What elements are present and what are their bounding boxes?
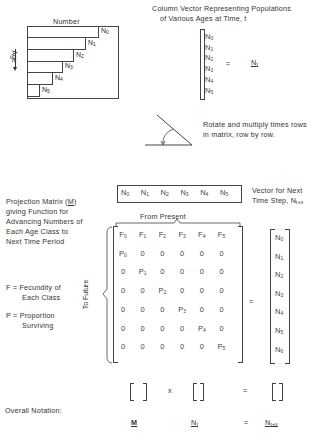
age-bar-label: N1 [88, 39, 96, 47]
to-future-brace [100, 225, 114, 365]
next-vector-item: N2 [275, 270, 283, 279]
age-bar [27, 38, 86, 50]
overall-ntx: Nt+x [265, 418, 278, 429]
matrix-cell: 0 [175, 324, 189, 333]
overall-equals-2: = [244, 418, 248, 428]
matrix-cell: F3 [175, 230, 189, 239]
matrix-cell: 0 [136, 342, 150, 351]
matrix-cell: P4 [195, 324, 209, 333]
matrix-cell: P5 [215, 342, 229, 351]
matrix-cell: 0 [136, 249, 150, 258]
matrix-cell: 0 [155, 342, 169, 351]
down-arrow-icon [15, 49, 16, 69]
matrix-cell: 0 [195, 249, 209, 258]
nt-symbol: Nt [251, 58, 258, 69]
age-bar-label: N0 [101, 27, 109, 35]
age-bar [27, 61, 63, 73]
matrix-cell: 0 [155, 249, 169, 258]
next-vector-bracket-right [285, 229, 290, 364]
matrix-cell: F1 [136, 230, 150, 239]
row-vector-item: N3 [180, 188, 188, 197]
vector-item: N5 [205, 86, 213, 95]
matrix-cell: 0 [215, 249, 229, 258]
matrix-cell: P1 [136, 267, 150, 276]
age-bar [27, 85, 40, 97]
overall-ntx-bracket-left [272, 383, 276, 401]
nt-sub: t [256, 61, 258, 67]
projection-desc-line: Each Age Class to [6, 227, 68, 237]
overall-nt-bracket-right [200, 383, 204, 401]
matrix-cell: 0 [175, 249, 189, 258]
rotate-text-1: Rotate and multiply times rows [203, 120, 307, 130]
row-vector-item: N5 [220, 188, 228, 197]
legend-p-2: Surviving [22, 321, 53, 331]
matrix-cell: F0 [116, 230, 130, 239]
overall-nt-bracket-left [193, 383, 197, 401]
row-vector-item: N4 [200, 188, 208, 197]
vector-item: N3 [205, 64, 213, 73]
matrix-cell: 0 [136, 324, 150, 333]
age-axis: Age [11, 47, 21, 71]
matrix-cell: 0 [215, 267, 229, 276]
age-bar [27, 26, 99, 38]
nt-sub: t [196, 421, 198, 427]
matrix-cell: 0 [155, 324, 169, 333]
next-vector-item: N4 [275, 307, 283, 316]
arrow-head [13, 67, 17, 71]
matrix-cell: P0 [116, 249, 130, 258]
matrix-cell: F2 [155, 230, 169, 239]
projection-desc-line: Next Time Period [6, 237, 64, 247]
vector-item: N4 [205, 75, 213, 84]
next-vector-caption-1: Vector for Next [252, 186, 303, 196]
matrix-cell: 0 [116, 342, 130, 351]
next-vector-item: N6 [275, 345, 283, 354]
matrix-cell: 0 [155, 305, 169, 314]
age-bar [27, 50, 74, 62]
overall-ntx-bracket-right [279, 383, 283, 401]
overall-equals: = [243, 386, 247, 396]
matrix-cell: 0 [195, 286, 209, 295]
matrix-cell: 0 [195, 267, 209, 276]
row-vector-item: N2 [161, 188, 169, 197]
rotate-angle-icon [140, 112, 200, 152]
overall-nt: Nt [191, 418, 198, 429]
matrix-cell: 0 [215, 324, 229, 333]
next-vector-caption-2: Time Step, Nt+x [252, 196, 304, 207]
matrix-cell: 0 [136, 305, 150, 314]
matrix-cell: 0 [195, 305, 209, 314]
to-future-label: To Future [82, 280, 89, 310]
vector-item: N1 [205, 43, 213, 52]
rotate-text-2: in matrix, row by row. [203, 130, 275, 140]
caption-sub: t+x [296, 199, 303, 205]
age-bar-label: N3 [65, 62, 73, 70]
ntx-sub: t+x [270, 421, 277, 427]
age-bar [27, 73, 53, 85]
matrix-cell: 0 [116, 286, 130, 295]
caption-text: Time Step, N [252, 196, 296, 205]
legend-p-1: P = Proportion [6, 311, 55, 321]
matrix-cell: 0 [215, 286, 229, 295]
matrix-cell: 0 [116, 267, 130, 276]
next-vector-item: N1 [275, 252, 283, 261]
matrix-bracket-right [238, 226, 243, 363]
overall-times: x [168, 386, 172, 396]
matrix-cell: F4 [195, 230, 209, 239]
next-vector-item: N0 [275, 233, 283, 242]
overall-m-bracket-left [130, 383, 134, 401]
age-bar-label: N2 [76, 51, 84, 59]
row-vector-item: N1 [141, 188, 149, 197]
matrix-cell: 0 [155, 267, 169, 276]
matrix-cell: 0 [116, 324, 130, 333]
projection-desc-line: Advancing Numbers of [6, 217, 83, 227]
matrix-equals-sign: = [249, 297, 253, 307]
matrix-cell: F5 [215, 230, 229, 239]
age-bar-label: N5 [42, 86, 50, 94]
overall-m: M [131, 418, 137, 428]
projection-desc-line: giving Function for [6, 207, 69, 217]
matrix-cell: 0 [175, 342, 189, 351]
equals-sign: = [226, 59, 230, 69]
overall-label: Overall Notation: [5, 406, 62, 416]
next-vector-item: N5 [275, 326, 283, 335]
column-vector-caption-1: Column Vector Representing Populations [152, 4, 291, 14]
row-vector-item: N0 [121, 188, 129, 197]
